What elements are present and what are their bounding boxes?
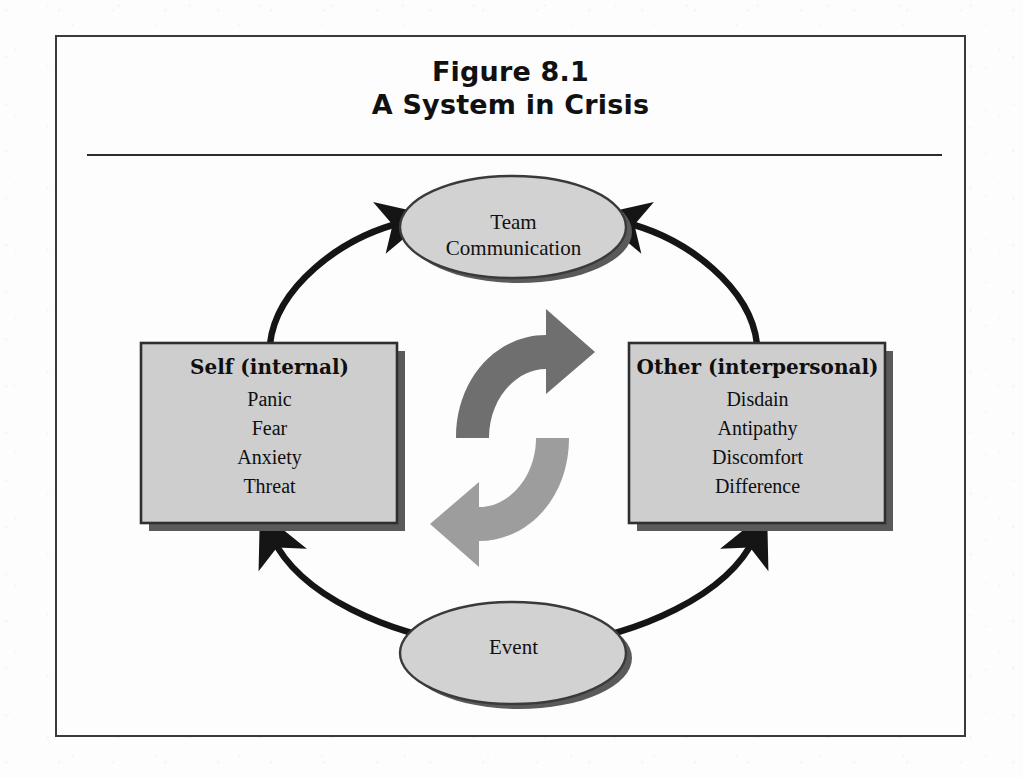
- node-self-internal-label: Self (internal) Panic Fear Anxiety Threa…: [143, 355, 396, 501]
- self-heading: Self (internal): [143, 355, 396, 379]
- recycle-arrow-lower: [430, 438, 569, 567]
- center-recycle-arrows-icon: [430, 309, 595, 567]
- system-in-crisis-diagram: Team Communication Event Self (internal)…: [57, 37, 968, 739]
- other-item-2: Antipathy: [631, 414, 884, 443]
- scanned-page: Figure 8.1 A System in Crisis: [0, 0, 1023, 778]
- recycle-arrow-upper: [456, 309, 595, 438]
- other-item-3: Discomfort: [631, 443, 884, 472]
- self-item-4: Threat: [143, 472, 396, 501]
- other-heading: Other (interpersonal): [631, 355, 884, 379]
- self-item-2: Fear: [143, 414, 396, 443]
- node-other-interpersonal-label: Other (interpersonal) Disdain Antipathy …: [631, 355, 884, 501]
- other-item-1: Disdain: [631, 385, 884, 414]
- edge-other-to-team: [623, 222, 757, 344]
- node-team-communication: [400, 176, 632, 283]
- self-item-3: Anxiety: [143, 443, 396, 472]
- node-event: [400, 602, 632, 709]
- other-item-4: Difference: [631, 472, 884, 501]
- figure-frame: Figure 8.1 A System in Crisis: [55, 35, 966, 737]
- edge-self-to-team: [270, 222, 404, 344]
- self-item-1: Panic: [143, 385, 396, 414]
